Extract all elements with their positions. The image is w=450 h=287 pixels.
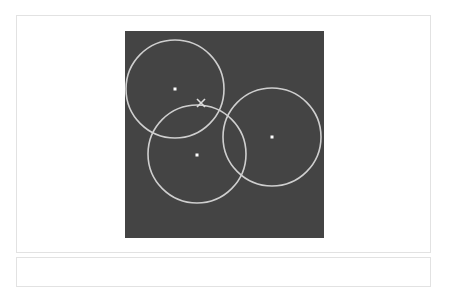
trilateration-canvas[interactable] — [125, 31, 324, 238]
canvas-svg — [125, 31, 324, 238]
anchor-point-3 — [271, 136, 274, 139]
anchor-point-1 — [174, 88, 177, 91]
lower-panel — [16, 257, 431, 287]
anchor-point-2 — [196, 154, 199, 157]
